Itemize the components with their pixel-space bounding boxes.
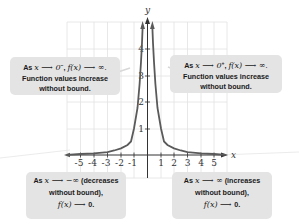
x-axis-label: x <box>231 150 236 160</box>
x-tick-label: 3 <box>185 158 191 168</box>
x-tick-label: -5 <box>75 158 84 168</box>
callout-top-right-line3: without bound. <box>174 82 278 93</box>
callout-top-right-line2: Function values increase <box>174 72 278 83</box>
y-axis: y 4 3 2 1 <box>138 5 151 178</box>
callout-top-left-line2: Function values increase <box>14 74 116 85</box>
y-tick-label: 1 <box>138 124 144 134</box>
callout-top-left-line1: As x ⟶ 0−, f(x) ⟶ ∞. <box>14 60 116 74</box>
callout-top-right-line1: As x ⟶ 0+, f(x) ⟶ ∞. <box>174 58 278 72</box>
x-tick-label: 1 <box>158 158 164 168</box>
x-tick-label: 4 <box>198 158 204 168</box>
x-tick-label: -4 <box>88 158 97 168</box>
x-tick-label: -3 <box>102 158 111 168</box>
callout-top-left: As x ⟶ 0−, f(x) ⟶ ∞. Function values inc… <box>10 57 120 95</box>
callout-bottom-right-line2: without bound), <box>176 187 268 199</box>
callout-bottom-right: As x ⟶ ∞ (increases without bound), f(x)… <box>172 172 272 219</box>
callout-bottom-left-line2: without bound), <box>30 187 122 199</box>
x-tick-label: 5 <box>211 158 217 168</box>
callout-top-left-line3: without bound. <box>14 84 116 95</box>
y-axis-arrow-icon <box>145 17 150 24</box>
callout-bottom-left: As x ⟶ −∞ (decreases without bound), f(x… <box>26 172 126 219</box>
callout-bottom-left-line1: As x ⟶ −∞ (decreases <box>30 175 122 187</box>
callout-bottom-left-line3: f(x) ⟶ 0. <box>30 199 122 211</box>
callout-bottom-right-line3: f(x) ⟶ 0. <box>176 199 268 211</box>
callout-top-right: As x ⟶ 0+, f(x) ⟶ ∞. Function values inc… <box>170 55 282 93</box>
y-axis-label: y <box>144 5 151 15</box>
x-tick-label: -2 <box>115 158 124 168</box>
x-tick-label: -1 <box>128 158 137 168</box>
x-tick-label: 2 <box>171 158 177 168</box>
callout-bottom-right-line1: As x ⟶ ∞ (increases <box>176 175 268 187</box>
